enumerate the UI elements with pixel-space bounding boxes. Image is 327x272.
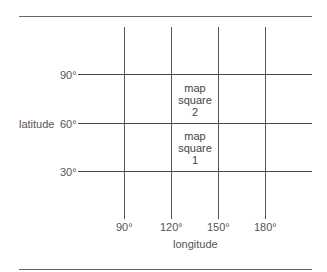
x-axis-title: longitude <box>173 238 218 250</box>
y-axis-title: latitude <box>19 118 54 130</box>
latitude-line-30 <box>78 171 312 172</box>
y-tick-60: 60° <box>60 118 77 130</box>
x-tick-90: 90° <box>116 221 133 233</box>
y-tick-30: 30° <box>60 166 77 178</box>
top-rule <box>19 16 312 17</box>
bottom-rule <box>19 269 312 270</box>
map-grid-diagram: 90° 60° 30° latitude 90° 120° 150° 180° … <box>0 0 327 272</box>
x-tick-180: 180° <box>254 221 277 233</box>
map-square-1-label: map square 1 <box>172 130 218 166</box>
y-tick-90: 90° <box>60 69 77 81</box>
map-square-2-label: map square 2 <box>172 82 218 118</box>
x-tick-150: 150° <box>207 221 230 233</box>
latitude-line-90 <box>78 74 312 75</box>
latitude-line-60 <box>78 123 312 124</box>
x-tick-120: 120° <box>160 221 183 233</box>
